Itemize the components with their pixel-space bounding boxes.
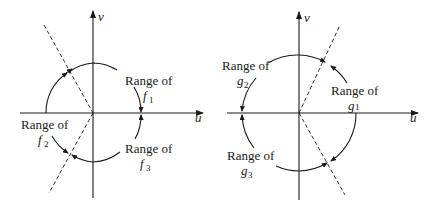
svg-text:g: g [237,73,244,88]
v-axis-label: v [304,10,310,25]
label-range-g2: Range of g 2 [222,58,270,90]
boundary-ray-lower [299,113,345,195]
range-f3-arc-upper [135,115,141,139]
range-f2-arc-upper [46,73,67,113]
label-range-g3: Range of g 3 [227,148,275,180]
label-range-f1: Range of f 1 [125,73,173,105]
svg-text:3: 3 [146,163,151,173]
svg-text:Range of: Range of [125,141,173,156]
svg-text:1: 1 [149,95,154,105]
svg-text:2: 2 [244,80,249,90]
svg-text:Range of: Range of [222,58,270,73]
range-g1-arc-lower [331,113,356,161]
range-g3-arc-lower [276,163,327,171]
boundary-ray-upper [44,25,93,113]
svg-text:2: 2 [44,139,49,149]
v-axis-label: v [98,9,104,24]
label-range-f2: Range of f 2 [21,117,69,149]
svg-text:Range of: Range of [21,117,69,132]
u-axis-label: u [195,110,202,125]
left-diagram: u v Range of f 1 Range of f 2 Range of f… [20,9,203,198]
boundary-ray-upper [299,25,340,113]
right-diagram: u v Range of g 1 Range of g 2 Range of g… [222,10,418,200]
u-axis-label: u [410,110,417,125]
svg-text:1: 1 [355,102,360,112]
range-g3-arc-upper [242,115,254,148]
svg-text:Range of: Range of [331,83,379,98]
svg-text:g: g [348,98,355,113]
range-f3-arc-lower [72,152,120,162]
svg-text:Range of: Range of [125,73,173,88]
diagram-canvas: u v Range of f 1 Range of f 2 Range of f… [0,0,433,210]
svg-text:Range of: Range of [227,148,275,163]
svg-text:3: 3 [248,170,253,180]
range-f2-arc-lower [52,136,68,153]
label-range-g1: Range of g 1 [331,83,379,113]
svg-text:g: g [241,163,248,178]
range-f1-arc-lower [134,87,141,112]
label-range-f3: Range of f 3 [125,141,173,173]
range-g1-arc-upper [331,66,347,83]
range-g2-arc-upper [268,55,325,63]
